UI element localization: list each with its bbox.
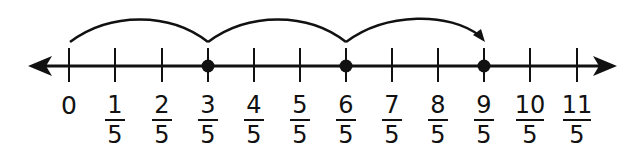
tick-label-3-5: 3 5 [188, 92, 228, 148]
denominator: 5 [384, 122, 399, 148]
numerator: 3 [200, 92, 215, 118]
denominator: 5 [338, 122, 353, 148]
tick-label-4-5: 4 5 [234, 92, 274, 148]
jump-arc-2 [208, 20, 346, 43]
numerator: 10 [515, 92, 546, 118]
number-line-diagram: 0 1 5 2 5 3 5 4 5 5 5 6 5 7 5 8 5 9 [0, 0, 633, 154]
numerator: 1 [107, 92, 122, 118]
point-9-5 [478, 60, 491, 73]
tick-label-2-5: 2 5 [142, 92, 182, 148]
jump-arc-1 [70, 20, 208, 43]
denominator: 5 [246, 122, 261, 148]
tick-label-1-5: 1 5 [95, 92, 135, 148]
numerator: 2 [154, 92, 169, 118]
denominator: 5 [430, 122, 445, 148]
point-3-5 [202, 60, 215, 73]
denominator: 5 [476, 122, 491, 148]
denominator: 5 [107, 122, 122, 148]
tick-label-9-5: 9 5 [464, 92, 504, 148]
tick-label-5-5: 5 5 [280, 92, 320, 148]
numerator: 5 [292, 92, 307, 118]
tick-label-6-5: 6 5 [326, 92, 366, 148]
jump-arc-3 [346, 19, 480, 42]
numerator: 6 [338, 92, 353, 118]
numerator: 7 [384, 92, 399, 118]
denominator: 5 [292, 122, 307, 148]
tick-label-7-5: 7 5 [372, 92, 412, 148]
numerator: 4 [246, 92, 261, 118]
tick-label-10-5: 10 5 [510, 92, 550, 148]
point-6-5 [340, 60, 353, 73]
denominator: 5 [522, 122, 537, 148]
tick-label-8-5: 8 5 [418, 92, 458, 148]
numerator: 11 [562, 92, 593, 118]
denominator: 5 [569, 122, 584, 148]
denominator: 5 [154, 122, 169, 148]
denominator: 5 [200, 122, 215, 148]
numerator: 9 [476, 92, 491, 118]
numerator: 8 [430, 92, 445, 118]
tick-label-11-5: 11 5 [557, 92, 597, 148]
tick-label-0: 0 [49, 92, 89, 120]
